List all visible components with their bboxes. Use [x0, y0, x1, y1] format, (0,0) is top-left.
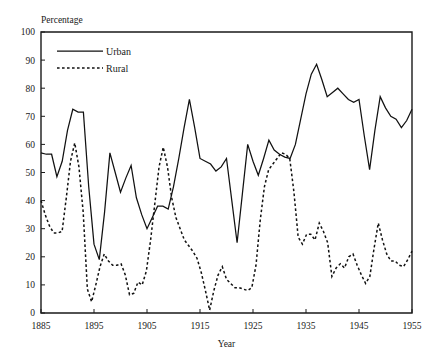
chart-figure: Percentage 0102030405060708090100 188518… — [0, 0, 425, 364]
data-series-group — [41, 64, 412, 310]
y-tick-label: 80 — [26, 84, 36, 94]
x-tick-label: 1885 — [32, 321, 51, 331]
x-tick-label: 1945 — [350, 321, 369, 331]
x-tick-label: 1895 — [85, 321, 104, 331]
line-chart-svg: Percentage 0102030405060708090100 188518… — [0, 0, 425, 364]
y-tick-label: 70 — [26, 112, 36, 122]
x-tick-label: 1915 — [191, 321, 210, 331]
y-tick-label: 30 — [26, 224, 36, 234]
y-tick-label: 90 — [26, 56, 36, 66]
y-axis-title-group: Percentage — [41, 15, 83, 25]
x-tick-label: 1905 — [138, 321, 157, 331]
legend-label-urban: Urban — [106, 46, 131, 57]
legend: Urban Rural — [57, 46, 131, 74]
x-tick-label: 1955 — [403, 321, 422, 331]
series-line-rural — [41, 143, 412, 310]
x-axis-title-group: Year — [218, 339, 236, 349]
plot-border — [41, 32, 412, 313]
series-line-urban — [41, 64, 412, 259]
y-tick-label: 20 — [26, 252, 36, 262]
y-tick-label: 60 — [26, 140, 36, 150]
x-axis-title: Year — [218, 339, 236, 349]
y-tick-label: 50 — [26, 168, 36, 178]
plot-frame — [41, 32, 412, 313]
x-tick-label: 1935 — [297, 321, 316, 331]
legend-label-rural: Rural — [106, 63, 128, 74]
y-tick-label: 40 — [26, 196, 36, 206]
y-tick-label: 100 — [21, 27, 36, 37]
y-axis-title: Percentage — [41, 15, 83, 25]
x-tick-label: 1925 — [244, 321, 263, 331]
y-tick-label: 10 — [26, 280, 36, 290]
y-tick-label: 0 — [30, 308, 35, 318]
